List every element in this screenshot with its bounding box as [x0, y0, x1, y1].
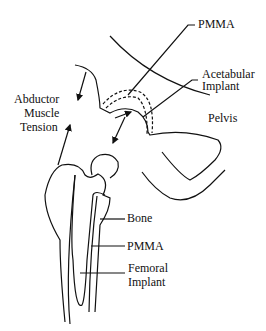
arrow-abductor-down — [78, 72, 86, 100]
label-abductor-line1: Abductor — [14, 93, 59, 106]
pelvis-outline-arc — [110, 36, 210, 95]
label-femoral-line2: Implant — [128, 276, 165, 289]
hip-implant-diagram: PMMA Acetabular Implant Pelvis Abductor … — [0, 0, 266, 331]
arrow-abductor-up — [58, 125, 70, 165]
arrow-joint-force — [115, 112, 131, 118]
label-abductor-line2: Muscle — [24, 107, 59, 120]
label-pmma-bottom: PMMA — [127, 240, 164, 253]
label-pmma-top: PMMA — [198, 18, 235, 31]
label-pelvis: Pelvis — [208, 112, 237, 125]
femoral-head — [91, 154, 118, 178]
leader-acetabular — [143, 80, 198, 117]
label-bone: Bone — [127, 212, 152, 225]
femur-outer — [45, 164, 110, 322]
label-abductor-line3: Tension — [20, 121, 58, 134]
pelvis-contour — [75, 65, 221, 180]
label-acetabular-line2: Implant — [202, 80, 239, 93]
leader-pmma-top — [128, 25, 195, 95]
pelvis-lower-curve — [142, 170, 225, 200]
label-femoral-line1: Femoral — [128, 262, 168, 275]
